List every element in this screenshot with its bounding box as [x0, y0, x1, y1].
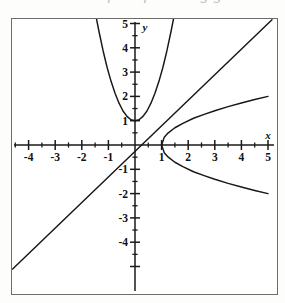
- y-tick-label: 4: [122, 42, 128, 54]
- x-tick-label: -1: [104, 151, 114, 163]
- x-tick-label: 3: [212, 151, 218, 163]
- graph-canvas: -4-3-2-11234554321-1-2-3-4xy: [12, 19, 277, 294]
- x-axis-name-label: x: [264, 129, 271, 141]
- y-tick-label: -2: [118, 188, 128, 200]
- x-tick-label: 4: [239, 151, 245, 163]
- x-tick-label: -4: [24, 151, 34, 163]
- curve-sideways-parabola-upper: [162, 96, 268, 145]
- plot-frame: -4-3-2-11234554321-1-2-3-4xy: [11, 18, 278, 295]
- cut-off-caption-text: Match each of the following graphs: [14, 0, 224, 8]
- x-tick-label: -3: [50, 151, 60, 163]
- x-tick-label: 2: [185, 151, 191, 163]
- x-tick-label: -2: [77, 151, 87, 163]
- y-axis-name-label: y: [141, 21, 148, 33]
- y-tick-label: -3: [118, 212, 128, 224]
- y-tick-label: 3: [122, 66, 128, 78]
- x-tick-label: 5: [265, 151, 271, 163]
- figure-page: Match each of the following graphs -4-3-…: [0, 0, 285, 303]
- y-tick-label: -4: [118, 236, 128, 248]
- y-tick-label: 5: [122, 19, 128, 30]
- y-tick-label: 2: [122, 90, 128, 102]
